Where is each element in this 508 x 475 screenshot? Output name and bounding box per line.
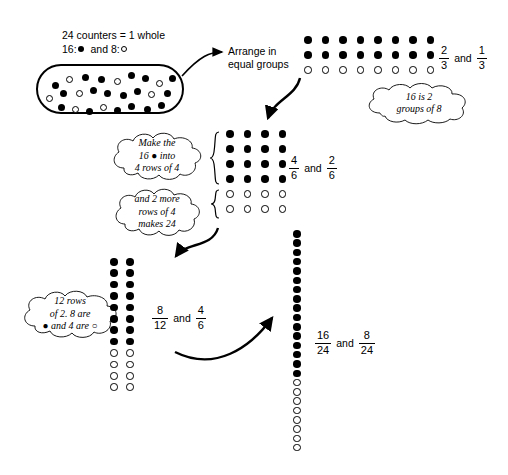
open-counter	[156, 80, 163, 87]
header-open-label: and 8:	[90, 43, 119, 55]
open-counter	[293, 407, 301, 415]
cloud-make-16-into-4-rows: Make the 16 ● into 4 rows of 4	[108, 130, 206, 182]
open-counter	[427, 66, 435, 74]
filled-counter	[144, 106, 151, 113]
filled-counter	[304, 51, 312, 59]
filled-counter	[128, 72, 135, 79]
filled-counter	[226, 130, 234, 138]
filled-counter	[110, 326, 118, 334]
array-8-by-3	[304, 36, 434, 74]
fraction-second-numerator: 4	[196, 305, 206, 318]
fraction-first-denominator: 3	[439, 58, 449, 72]
filled-counter	[126, 326, 134, 334]
fraction-first-denominator: 6	[289, 168, 299, 182]
filled-counter	[322, 36, 330, 44]
open-counter	[279, 205, 287, 213]
fraction-second-denominator: 24	[359, 343, 375, 357]
fraction-second: 4 6	[196, 305, 206, 331]
open-counter	[110, 383, 118, 391]
array-1-by-24	[293, 230, 301, 451]
filled-counter	[244, 130, 252, 138]
filled-counter	[409, 36, 417, 44]
filled-counter	[293, 267, 301, 275]
filled-counter	[126, 281, 134, 289]
open-counter	[279, 190, 287, 198]
filled-counter	[261, 130, 269, 138]
cloud-line-2: of 2. 8 are	[50, 308, 91, 321]
open-counter	[110, 349, 118, 357]
brace-filled-rows	[210, 132, 219, 184]
cloud-line-1: 16 is 2	[406, 91, 433, 104]
fraction-second-denominator: 6	[327, 168, 337, 182]
filled-counter	[126, 338, 134, 346]
filled-counter	[226, 145, 234, 153]
filled-counter	[293, 360, 301, 368]
open-counter	[126, 361, 134, 369]
filled-counter	[110, 292, 118, 300]
open-counter	[126, 383, 134, 391]
filled-counter	[392, 36, 400, 44]
filled-counter	[293, 286, 301, 294]
fraction-second-numerator: 2	[327, 155, 337, 168]
cloud-make-16-text: Make the 16 ● into 4 rows of 4	[108, 130, 206, 182]
open-counter-icon	[121, 46, 127, 52]
open-counter	[114, 78, 121, 85]
filled-counter	[128, 103, 135, 110]
filled-counter	[357, 51, 365, 59]
filled-counter	[392, 51, 400, 59]
arrange-step-line-2: equal groups	[228, 58, 289, 70]
fraction-first-numerator: 16	[315, 330, 331, 343]
fraction-second-denominator: 3	[477, 58, 487, 72]
open-counter	[293, 435, 301, 443]
filled-counter	[293, 295, 301, 303]
open-counter	[339, 66, 347, 74]
open-counter	[293, 425, 301, 433]
fraction-counters-diagram: 24 counters = 1 whole 16: and 8: Arrange…	[0, 0, 508, 475]
filled-counter	[226, 175, 234, 183]
filled-counter	[279, 175, 287, 183]
filled-counter	[339, 51, 347, 59]
cloud-sixteen-is-two-groups-text: 16 is 2 groups of 8	[360, 82, 478, 124]
open-counter	[322, 66, 330, 74]
filled-counter-icon	[78, 46, 84, 52]
filled-counter	[427, 51, 435, 59]
filled-counter	[126, 315, 134, 323]
header-line-2: 16: and 8:	[62, 42, 128, 56]
filled-counter	[110, 258, 118, 266]
fraction-second: 1 3	[477, 45, 487, 71]
header-line-1: 24 counters = 1 whole	[62, 28, 165, 42]
fraction-label-eight-twelfths-four-sixths: 8 12 and 4 6	[150, 305, 208, 331]
filled-counter	[244, 160, 252, 168]
filled-counter	[293, 351, 301, 359]
filled-counter	[58, 104, 65, 111]
open-counter	[76, 90, 83, 97]
oval-of-counters	[36, 64, 184, 114]
fraction-conjunction: and	[173, 312, 191, 324]
brace-open-rows	[211, 190, 219, 218]
open-counter	[148, 91, 155, 98]
open-counter	[261, 190, 269, 198]
open-counter	[72, 106, 79, 113]
open-counter	[261, 205, 269, 213]
open-counter	[293, 388, 301, 396]
filled-counter	[126, 304, 134, 312]
filled-counter	[357, 36, 365, 44]
array-4-by-6	[226, 130, 286, 213]
fraction-second-numerator: 8	[362, 330, 372, 343]
fraction-second-numerator: 1	[477, 45, 487, 58]
open-counter	[100, 104, 107, 111]
fraction-conjunction: and	[304, 162, 322, 174]
filled-counter	[142, 75, 149, 82]
filled-counter	[126, 258, 134, 266]
filled-counter	[293, 239, 301, 247]
filled-counter	[110, 315, 118, 323]
fraction-first-numerator: 2	[439, 45, 449, 58]
open-counter	[392, 66, 400, 74]
fraction-first: 8 12	[152, 305, 168, 331]
filled-counter	[374, 51, 382, 59]
filled-counter	[279, 145, 287, 153]
fraction-first-denominator: 12	[152, 318, 168, 332]
filled-counter	[244, 175, 252, 183]
open-counter	[66, 76, 73, 83]
filled-counter	[293, 323, 301, 331]
